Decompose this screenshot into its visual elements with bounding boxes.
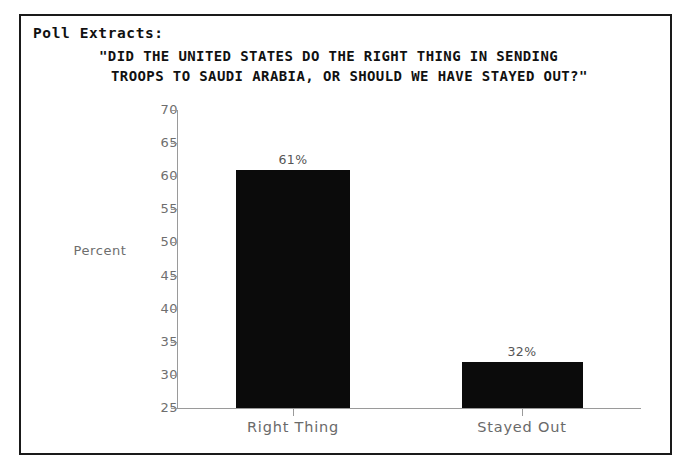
x-axis-label-right-thing: Right Thing xyxy=(247,419,339,435)
y-tick-mark-40 xyxy=(171,309,178,310)
y-tick-mark-65 xyxy=(171,143,178,144)
y-tick-mark-70 xyxy=(171,110,178,111)
y-axis-line xyxy=(177,110,178,409)
bar-value-label-stayed-out: 32% xyxy=(508,344,537,359)
bar-value-label-right-thing: 61% xyxy=(279,152,308,167)
x-tick-mark-0 xyxy=(293,409,294,416)
y-tick-mark-25 xyxy=(171,408,178,409)
bar-stayed-out xyxy=(462,362,583,408)
x-tick-mark-1 xyxy=(522,409,523,416)
y-tick-mark-45 xyxy=(171,276,178,277)
y-tick-mark-50 xyxy=(171,242,178,243)
y-tick-mark-30 xyxy=(171,375,178,376)
x-axis-line xyxy=(177,408,641,409)
poll-extract-figure: Poll Extracts: "DID THE UNITED STATES DO… xyxy=(0,0,692,470)
y-tick-mark-55 xyxy=(171,209,178,210)
y-axis-title: Percent xyxy=(60,243,140,258)
y-tick-mark-35 xyxy=(171,342,178,343)
y-tick-mark-60 xyxy=(171,176,178,177)
bar-chart: Percent 25303540455055606570 Right Thing… xyxy=(0,0,692,470)
bar-right-thing xyxy=(236,170,350,408)
x-axis-label-stayed-out: Stayed Out xyxy=(477,419,566,435)
